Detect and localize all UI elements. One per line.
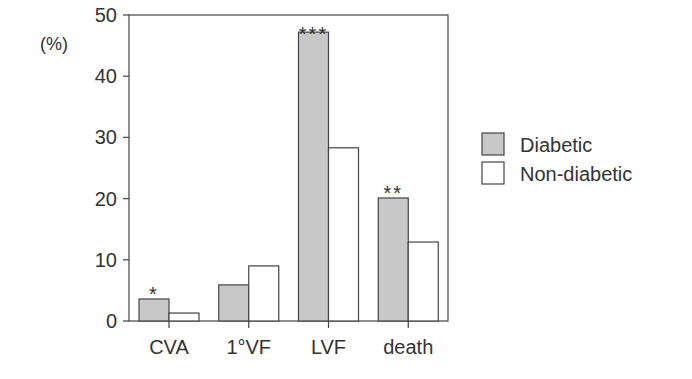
y-tick-label: 40	[95, 65, 117, 87]
bar-non-diabetic-0	[169, 313, 199, 321]
y-tick-label: 20	[95, 188, 117, 210]
legend-label: Diabetic	[520, 134, 592, 156]
y-tick-label: 0	[106, 310, 117, 332]
y-tick-label: 10	[95, 249, 117, 271]
x-tick-label: LVF	[311, 336, 346, 358]
bar-diabetic-2	[299, 32, 329, 321]
y-tick-label: 30	[95, 126, 117, 148]
legend-swatch-non-diabetic	[482, 162, 504, 184]
bar-non-diabetic-2	[329, 148, 359, 321]
x-tick-label: death	[383, 336, 433, 358]
bar-non-diabetic-3	[408, 242, 438, 321]
bar-non-diabetic-1	[249, 266, 279, 321]
bar-chart: 01020304050(%)CVA*1°VFLVF***death**Diabe…	[0, 0, 692, 379]
x-tick-label: CVA	[149, 336, 189, 358]
legend-swatch-diabetic	[482, 133, 504, 155]
y-tick-label: 50	[95, 4, 117, 26]
bar-diabetic-1	[219, 285, 249, 321]
significance-marker: *	[149, 283, 159, 305]
x-tick-label: 1°VF	[226, 336, 271, 358]
significance-marker: ***	[299, 23, 328, 45]
legend-label: Non-diabetic	[520, 163, 632, 185]
y-axis-label: (%)	[40, 34, 68, 54]
significance-marker: **	[383, 182, 403, 204]
bar-diabetic-3	[378, 198, 408, 321]
